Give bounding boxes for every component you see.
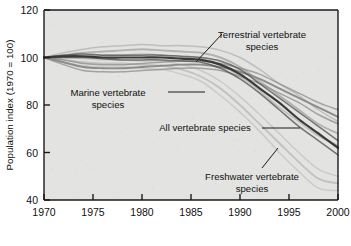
y-tick-label-80: 80 [26, 99, 38, 111]
y-tick-label-60: 60 [26, 147, 38, 159]
x-tick-label-1975: 1975 [81, 206, 105, 218]
x-tick-label-2000: 2000 [326, 206, 350, 218]
x-tick-label-1990: 1990 [228, 206, 252, 218]
x-tick-label-1995: 1995 [277, 206, 301, 218]
y-axis-title: Population index (1970 = 100) [4, 40, 15, 171]
y-tick-label-40: 40 [26, 194, 38, 206]
chart-figure: 4060801001201970197519801985199019952000… [0, 0, 351, 246]
annotation-terrestrial-line1: Terrestrial vertebrate [218, 29, 306, 40]
annotation-terrestrial-line2: species [246, 41, 279, 52]
x-tick-label-1985: 1985 [179, 206, 203, 218]
annotation-all-line1: All vertebrate species [159, 122, 251, 133]
y-tick-label-120: 120 [20, 4, 38, 16]
annotation-marine-line1: Marine vertebrate [70, 87, 145, 98]
chart-svg: 4060801001201970197519801985199019952000… [0, 0, 351, 246]
x-tick-label-1980: 1980 [130, 206, 154, 218]
x-tick-label-1970: 1970 [32, 206, 56, 218]
annotation-freshwater-line1: Freshwater vertebrate [205, 171, 299, 182]
annotation-marine-line2: species [92, 99, 125, 110]
y-tick-label-100: 100 [20, 52, 38, 64]
annotation-freshwater-line2: species [236, 183, 269, 194]
